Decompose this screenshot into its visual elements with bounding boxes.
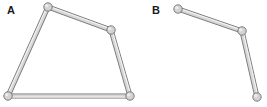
- link-upper: [177, 7, 242, 33]
- right-middle-joint-circle: [107, 26, 115, 34]
- bottom-right-joint-highlight: [127, 93, 131, 97]
- top-left-joint-circle: [44, 3, 52, 11]
- link-top-highlight: [49, 6, 110, 28]
- lower-right-joint-circle: [253, 93, 261, 101]
- top-left-joint-highlight: [45, 4, 49, 8]
- panel-label-b: B: [152, 4, 160, 16]
- upper-left-joint: [174, 5, 182, 13]
- link-lower-highlight: [243, 32, 258, 96]
- panel-label-a: A: [7, 4, 15, 16]
- bottom-left-joint-circle: [4, 92, 12, 100]
- link-upper-highlight: [179, 8, 241, 29]
- link-lower: [240, 31, 259, 98]
- middle-joint-circle: [238, 27, 246, 35]
- link-left-highlight: [8, 8, 47, 95]
- linkage-figure: AB: [0, 0, 267, 107]
- labels-layer: AB: [7, 4, 160, 16]
- bottom-left-joint-highlight: [5, 93, 9, 97]
- link-right-highlight: [112, 31, 130, 95]
- lower-right-joint-highlight: [254, 94, 258, 98]
- link-top: [47, 5, 111, 32]
- bottom-right-joint-circle: [126, 92, 134, 100]
- link-right: [109, 29, 132, 96]
- lower-right-joint: [253, 93, 261, 101]
- link-left: [6, 6, 50, 97]
- bottom-right-joint: [126, 92, 134, 100]
- upper-left-joint-circle: [174, 5, 182, 13]
- middle-joint: [238, 27, 246, 35]
- top-left-joint: [44, 3, 52, 11]
- upper-left-joint-highlight: [175, 6, 179, 10]
- bottom-left-joint: [4, 92, 12, 100]
- linkage-diagram-canvas: AB: [0, 0, 267, 107]
- right-middle-joint-highlight: [108, 27, 112, 31]
- link-bottom: [8, 94, 130, 98]
- middle-joint-highlight: [239, 28, 243, 32]
- right-middle-joint: [107, 26, 115, 34]
- links-layer: [6, 5, 259, 98]
